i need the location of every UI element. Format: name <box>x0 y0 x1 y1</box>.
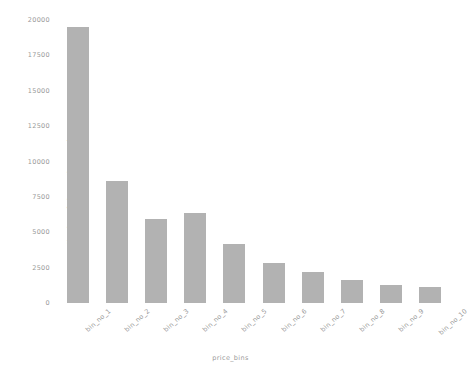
x-tick-label-text: bin_no_5 <box>240 307 269 334</box>
bar <box>263 263 285 303</box>
y-tick-label: 20000 <box>0 16 50 24</box>
x-tick-label-text: bin_no_7 <box>319 307 348 334</box>
bar <box>145 219 167 303</box>
x-tick-label-text: bin_no_3 <box>162 307 191 334</box>
x-tick-label: bin_no_9 <box>397 307 426 334</box>
y-tick-label: 0 <box>0 299 50 307</box>
x-axis-title: price_bins <box>0 354 461 362</box>
bar <box>106 181 128 303</box>
x-tick-label: bin_no_6 <box>280 307 309 334</box>
x-tick-label-text: bin_no_9 <box>397 307 426 334</box>
bar <box>302 272 324 303</box>
y-axis-tick-labels: 02500500075001000012500150001750020000 <box>0 20 58 303</box>
x-tick-label: bin_no_10 <box>438 307 469 337</box>
x-tick-label-text: bin_no_2 <box>123 307 152 334</box>
x-tick-label: bin_no_8 <box>358 307 387 334</box>
x-tick-label: bin_no_1 <box>84 307 113 334</box>
plot-area <box>58 20 450 303</box>
bar <box>67 27 89 303</box>
bar <box>184 213 206 303</box>
x-tick-label-text: bin_no_10 <box>438 307 469 337</box>
y-tick-label: 12500 <box>0 122 50 130</box>
x-tick-label: bin_no_5 <box>240 307 269 334</box>
bar <box>419 287 441 303</box>
x-tick-label-text: bin_no_8 <box>358 307 387 334</box>
x-tick-label: bin_no_3 <box>162 307 191 334</box>
x-tick-label-text: bin_no_6 <box>280 307 309 334</box>
y-tick-label: 10000 <box>0 158 50 166</box>
y-tick-label: 15000 <box>0 87 50 95</box>
y-tick-label: 2500 <box>0 264 50 272</box>
x-tick-label: bin_no_2 <box>123 307 152 334</box>
y-tick-label: 17500 <box>0 51 50 59</box>
bar <box>341 280 363 303</box>
x-tick-label: bin_no_7 <box>319 307 348 334</box>
y-tick-label: 5000 <box>0 228 50 236</box>
bar <box>380 285 402 303</box>
x-axis-tick-labels: bin_no_1bin_no_2bin_no_3bin_no_4bin_no_5… <box>58 303 450 358</box>
x-tick-label-text: bin_no_4 <box>201 307 230 334</box>
y-tick-label: 7500 <box>0 193 50 201</box>
bars-layer <box>58 20 450 303</box>
bar <box>223 244 245 303</box>
x-tick-label: bin_no_4 <box>201 307 230 334</box>
x-tick-label-text: bin_no_1 <box>84 307 113 334</box>
